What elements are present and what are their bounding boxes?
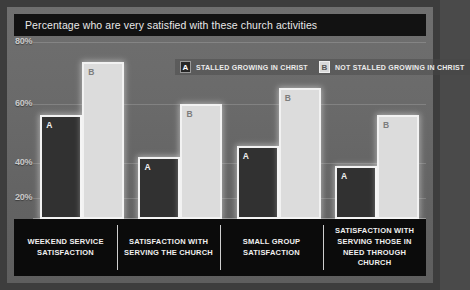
- y-tick-60: 60%: [15, 98, 32, 108]
- bar-b-3[interactable]: B: [377, 115, 419, 219]
- category-cell-0: WEEKEND SERVICE SATISFACTION: [14, 219, 117, 276]
- legend-label-b: NOT STALLED GROWING IN CHRIST: [335, 64, 465, 71]
- bar-letter-b-1: B: [186, 109, 192, 119]
- bar-b-2[interactable]: B: [279, 88, 321, 219]
- bar-letter-a-3: A: [341, 171, 347, 181]
- y-tick-20: 20%: [15, 192, 32, 202]
- bar-letter-b-0: B: [88, 67, 94, 77]
- category-cell-1: SATISFACTION WITH SERVING THE CHURCH: [117, 219, 220, 276]
- chart-title-bar: Percentage who are very satisfied with t…: [14, 14, 426, 36]
- category-label-3: SATISFACTION WITH SERVING THOSE IN NEED …: [327, 226, 422, 270]
- bar-b-0[interactable]: B: [82, 62, 124, 219]
- legend-label-a: STALLED GROWING IN CHRIST: [196, 64, 308, 71]
- bar-a-1[interactable]: A: [138, 157, 180, 219]
- y-tick-80: 80%: [15, 36, 32, 46]
- legend-swatch-a-icon: A: [180, 61, 191, 73]
- page-title: Percentage who are very satisfied with t…: [25, 19, 317, 31]
- bar-group-0: A B: [33, 36, 131, 219]
- bar-letter-a-1: A: [144, 162, 150, 172]
- legend-item-b: B NOT STALLED GROWING IN CHRIST: [319, 61, 465, 73]
- bar-b-1[interactable]: B: [180, 104, 222, 219]
- bar-letter-b-3: B: [383, 120, 389, 130]
- bar-letter-a-2: A: [243, 151, 249, 161]
- bar-a-0[interactable]: A: [40, 115, 82, 219]
- category-label-0: WEEKEND SERVICE SATISFACTION: [18, 237, 113, 259]
- bar-letter-a-0: A: [46, 120, 52, 130]
- bar-a-3[interactable]: A: [335, 166, 377, 219]
- category-cell-3: SATISFACTION WITH SERVING THOSE IN NEED …: [323, 219, 426, 276]
- category-axis-band: WEEKEND SERVICE SATISFACTION SATISFACTIO…: [14, 219, 426, 276]
- category-cell-2: SMALL GROUP SATISFACTION: [220, 219, 323, 276]
- bar-letter-b-2: B: [285, 93, 291, 103]
- bar-a-2[interactable]: A: [237, 146, 279, 219]
- chart-legend: A STALLED GROWING IN CHRIST B NOT STALLE…: [175, 59, 470, 75]
- category-label-1: SATISFACTION WITH SERVING THE CHURCH: [121, 237, 216, 259]
- legend-swatch-b-icon: B: [319, 61, 330, 73]
- category-label-2: SMALL GROUP SATISFACTION: [224, 237, 319, 259]
- legend-item-a: A STALLED GROWING IN CHRIST: [180, 61, 308, 73]
- y-tick-40: 40%: [15, 157, 32, 167]
